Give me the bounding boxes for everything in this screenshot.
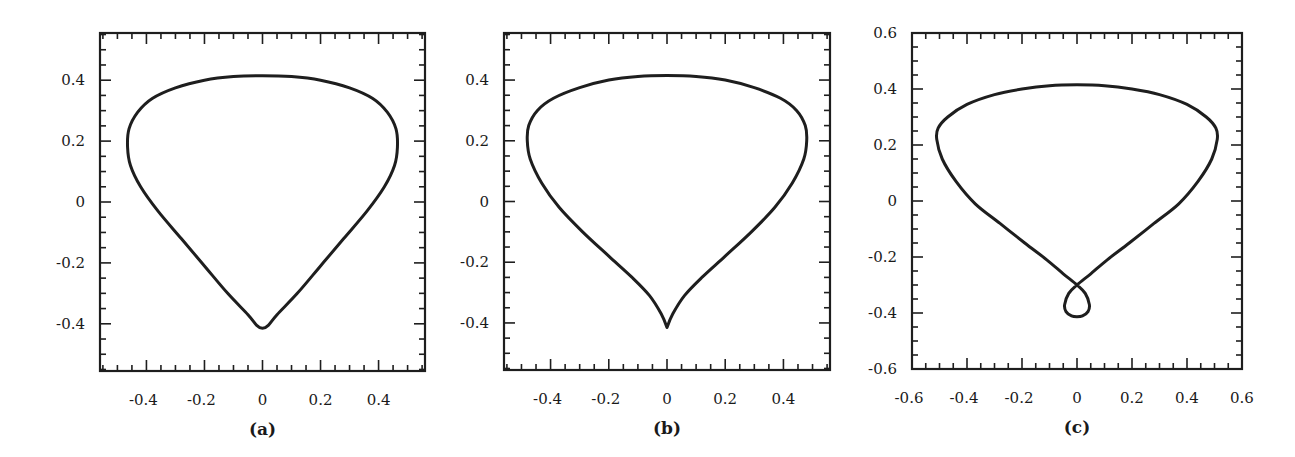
y-tick-label: 0.2	[465, 132, 489, 150]
x-tick-label: -0.4	[129, 391, 158, 409]
curve-line	[527, 76, 807, 328]
x-tick-label: 0.4	[1175, 389, 1199, 407]
panel-a: -0.4-0.200.20.4-0.4-0.200.20.4(a)	[56, 33, 425, 439]
plot-frame	[100, 33, 425, 371]
y-tick-label: 0.2	[61, 132, 85, 150]
y-tick-label: -0.2	[56, 254, 85, 272]
axis-ticks	[100, 33, 425, 371]
panel-caption: (b)	[653, 418, 681, 438]
y-tick-label: 0	[479, 193, 489, 211]
panel-c: -0.6-0.4-0.200.20.40.6-0.6-0.4-0.200.20.…	[868, 24, 1254, 437]
x-tick-label: -0.6	[895, 389, 924, 407]
x-tick-label: 0.2	[309, 391, 333, 409]
x-tick-label: 0	[1072, 389, 1082, 407]
x-tick-label: 0	[662, 390, 672, 408]
y-tick-label: 0.4	[873, 80, 897, 98]
x-tick-label: -0.4	[950, 389, 979, 407]
y-tick-label: -0.4	[56, 315, 85, 333]
panel-b: -0.4-0.200.20.4-0.4-0.200.20.4(b)	[460, 33, 830, 438]
x-tick-label: -0.2	[1005, 389, 1034, 407]
y-tick-label: 0.4	[61, 71, 85, 89]
y-tick-label: 0.4	[465, 71, 489, 89]
x-tick-label: 0.4	[771, 390, 795, 408]
figure-canvas: -0.4-0.200.20.4-0.4-0.200.20.4(a) -0.4-0…	[0, 0, 1295, 457]
panel-caption: (a)	[249, 419, 276, 439]
y-tick-label: 0	[887, 192, 897, 210]
x-tick-label: -0.4	[533, 390, 562, 408]
panel-caption: (c)	[1064, 417, 1090, 437]
x-tick-label: -0.2	[187, 391, 216, 409]
y-tick-label: -0.4	[868, 304, 897, 322]
y-tick-label: -0.4	[460, 314, 489, 332]
y-tick-label: -0.6	[868, 360, 897, 378]
x-tick-label: 0.2	[713, 390, 737, 408]
x-tick-label: 0.2	[1120, 389, 1144, 407]
y-tick-label: 0.6	[873, 24, 897, 42]
x-tick-label: 0.6	[1230, 389, 1254, 407]
x-tick-label: 0	[258, 391, 268, 409]
y-tick-label: -0.2	[868, 248, 897, 266]
x-tick-label: -0.2	[591, 390, 620, 408]
curve-line	[127, 76, 397, 329]
y-tick-label: 0.2	[873, 136, 897, 154]
x-tick-label: 0.4	[367, 391, 391, 409]
y-tick-label: 0	[75, 193, 85, 211]
y-tick-label: -0.2	[460, 253, 489, 271]
curve-line	[936, 85, 1217, 317]
